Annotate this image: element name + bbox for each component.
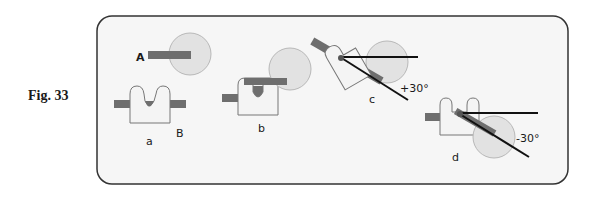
pivot-dot [457,111,463,117]
panel-B-label: B [176,127,184,140]
bar-left [425,113,441,121]
angle-label: -30° [516,132,539,145]
diagram-canvas: A a B b +30° c [0,0,597,197]
panel-A-label: A [136,51,145,64]
panel-a-label: a [146,135,153,148]
bar-left [222,94,238,102]
pivot-dot [338,55,344,61]
panel-b-label: b [258,122,265,135]
panel-d-label: d [452,151,459,164]
bar-left [114,100,131,108]
bar-shape [148,51,191,59]
bar-right [170,100,186,108]
panel-c-label: c [369,93,375,106]
angle-label: +30° [400,82,429,95]
bar-top [244,78,287,85]
